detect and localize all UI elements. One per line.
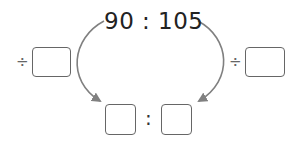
result-left-input[interactable] [105,104,136,135]
right-divisor-input[interactable] [245,47,285,77]
ratio-expression: 90 : 105 [104,6,200,36]
left-divide-sign: ÷ [16,55,29,70]
right-divide-sign: ÷ [229,55,242,70]
ratio-right-value: 105 [158,6,200,36]
ratio-left-value: 90 [104,6,134,36]
left-curved-arrow [77,21,104,101]
ratio-separator: : [134,6,158,36]
left-divisor-input[interactable] [32,47,71,77]
result-right-input[interactable] [161,104,192,135]
result-separator: : [145,108,152,128]
